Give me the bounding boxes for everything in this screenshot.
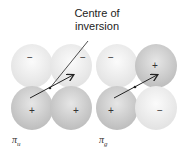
sign-pi-g-upper-left: − <box>108 52 114 63</box>
lobe-lower-left <box>96 86 138 130</box>
lobe-lower-right <box>135 86 177 130</box>
pi-g-label: πg <box>99 134 108 148</box>
sign-pi-g-lower-left: + <box>108 105 114 116</box>
sign-pi-u-lower-right: + <box>73 105 79 116</box>
sign-pi-g-upper-right: + <box>152 60 158 71</box>
lobe-upper-left <box>96 44 138 88</box>
pi-g-subscript: g <box>104 140 108 148</box>
pi-u-subscript: u <box>17 140 21 148</box>
pi-u-label: πu <box>12 134 21 148</box>
inversion-center <box>49 87 52 90</box>
lobe-upper-right <box>50 44 92 88</box>
sign-pi-u-lower-left: + <box>29 105 35 116</box>
orbital-diagram <box>0 0 189 155</box>
inversion-center <box>134 86 137 89</box>
sign-pi-u-upper-left: − <box>27 52 33 63</box>
lobe-lower-right <box>50 86 92 130</box>
sign-pi-g-lower-right: − <box>157 105 163 116</box>
lobe-upper-left <box>11 44 53 88</box>
sign-pi-u-upper-right: − <box>80 52 86 63</box>
